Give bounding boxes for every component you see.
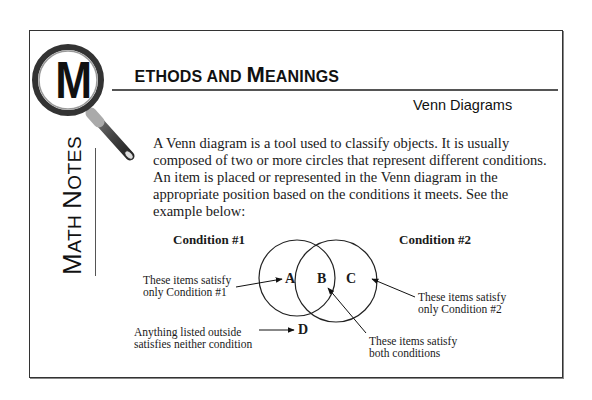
section-subtitle: Venn Diagrams [413,97,512,113]
note-line: only Condition #1 [143,286,231,298]
both-conditions-note: These items satisfy both conditions [369,335,457,359]
only-condition2-note: These items satisfy only Condition #2 [418,291,506,315]
note-line: These items satisfy [369,335,457,347]
region-c-label: C [346,271,356,287]
page-title: METHODS AND MEANINGS [100,62,339,88]
side-part1: ATH [64,209,85,253]
note-line: Anything listed outside [134,326,252,338]
note-line: both conditions [369,347,457,359]
intro-paragraph: A Venn diagram is a tool used to classif… [153,135,548,220]
note-line: These items satisfy [418,291,506,303]
title-cap-m2: M [246,62,265,87]
note-line: These items satisfy [143,274,231,286]
region-b-label: B [317,271,326,287]
condition-2-label: Condition #2 [399,232,471,248]
only-condition1-note: These items satisfy only Condition #1 [143,274,231,298]
note-line: satisfies neither condition [134,338,252,350]
condition-1-label: Condition #1 [173,232,245,248]
side-divider [95,148,96,276]
title-divider [112,89,558,91]
side-cap-n: N [57,190,87,209]
region-d-label: D [298,322,308,338]
side-part2: OTES [64,136,85,190]
region-a-label: A [285,271,295,287]
note-line: only Condition #2 [418,303,506,315]
title-part2: EANINGS [265,68,339,85]
math-notes-label: MATH NOTES [57,136,88,275]
side-cap-m: M [57,253,87,275]
outside-note: Anything listed outside satisfies neithe… [134,326,252,350]
logo-letter: M [55,52,92,108]
title-part1: ETHODS AND [135,68,247,85]
